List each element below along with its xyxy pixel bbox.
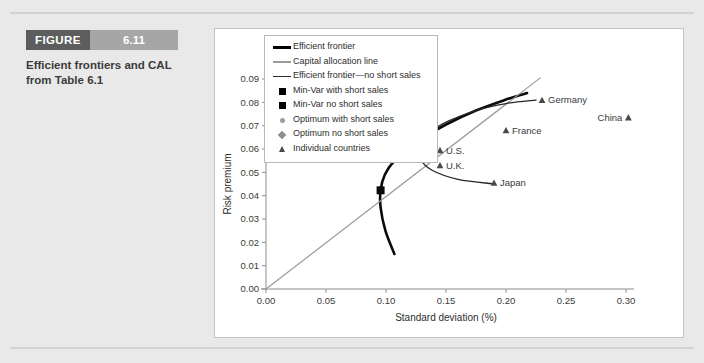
marker-triangle: [625, 114, 632, 120]
data-point-label: U.K.: [446, 160, 464, 171]
data-point-label: China: [598, 112, 624, 123]
bottom-divider: [10, 347, 694, 349]
legend-swatch: [279, 102, 286, 109]
y-axis-tick-label: 0.06: [241, 143, 260, 154]
x-axis-tick-label: 0.15: [437, 295, 456, 306]
y-axis-tick-label: 0.00: [241, 283, 260, 294]
marker-triangle: [539, 97, 546, 103]
legend-item-label: Individual countries: [293, 143, 370, 154]
legend-item: Capital allocation line: [271, 56, 431, 68]
legend-swatch: [280, 118, 285, 123]
x-axis-title: Standard deviation (%): [395, 312, 497, 323]
figure-banner-number: 6.11: [90, 30, 178, 50]
data-point-label: Germany: [548, 94, 587, 105]
legend-key-square-icon: [271, 100, 293, 111]
top-divider: [10, 12, 694, 14]
marker-square: [377, 186, 385, 194]
figure-page: FIGURE 6.11 Efficient frontiers and CAL …: [0, 0, 704, 363]
legend-key-square-icon: [271, 86, 293, 97]
legend-key-diamond-icon: [271, 129, 293, 140]
marker-triangle: [503, 127, 510, 133]
x-axis-tick-label: 0.25: [557, 295, 576, 306]
legend-item: Efficient frontier: [271, 41, 431, 53]
x-axis-tick-label: 0.30: [617, 295, 636, 306]
y-axis-tick-label: 0.05: [241, 167, 260, 178]
legend-item-label: Optimum with short sales: [293, 114, 394, 125]
legend-swatch: [273, 46, 291, 49]
figure-banner-label: FIGURE: [26, 30, 90, 50]
legend-item-label: Capital allocation line: [293, 56, 378, 67]
y-axis-tick-label: 0.07: [241, 120, 260, 131]
legend-swatch: [273, 76, 291, 77]
x-axis-tick-label: 0.20: [497, 295, 516, 306]
x-axis-tick-label: 0.00: [257, 295, 276, 306]
data-point-label: Japan: [500, 177, 526, 188]
legend-swatch: [278, 130, 286, 138]
figure-banner: FIGURE 6.11: [26, 30, 178, 50]
legend-item-label: Efficient frontier—no short sales: [293, 70, 420, 81]
y-axis-tick-label: 0.02: [241, 237, 260, 248]
y-axis-title: Risk premium: [222, 153, 233, 214]
y-axis-tick-label: 0.01: [241, 260, 260, 271]
chart-legend: Efficient frontierCapital allocation lin…: [264, 35, 438, 163]
legend-key-triangle-icon: [271, 144, 293, 155]
legend-item: Optimum no short sales: [271, 128, 431, 140]
legend-key-line-thick-icon: [271, 42, 293, 53]
legend-item-label: Min-Var with short sales: [293, 85, 388, 96]
y-axis-tick-label: 0.03: [241, 213, 260, 224]
legend-key-line-mid-icon: [271, 71, 293, 82]
legend-item-label: Optimum no short sales: [293, 128, 388, 139]
data-point-label: France: [512, 125, 542, 136]
legend-item: Individual countries: [271, 143, 431, 155]
data-point-label: U.S.: [446, 145, 464, 156]
legend-item: Efficient frontier—no short sales: [271, 70, 431, 82]
y-axis-tick-label: 0.08: [241, 97, 260, 108]
legend-swatch: [279, 88, 286, 95]
figure-panel: 0.000.010.020.030.040.050.060.070.080.09…: [214, 28, 684, 338]
legend-item: Min-Var with short sales: [271, 85, 431, 97]
figure-caption: Efficient frontiers and CAL from Table 6…: [26, 58, 192, 88]
legend-item: Min-Var no short sales: [271, 99, 431, 111]
x-axis-tick-label: 0.10: [377, 295, 396, 306]
legend-swatch: [279, 146, 285, 152]
legend-key-line-thin-icon: [271, 57, 293, 68]
legend-swatch: [273, 61, 291, 62]
marker-triangle: [491, 179, 498, 185]
y-axis-tick-label: 0.09: [241, 73, 260, 84]
legend-item: Optimum with short sales: [271, 114, 431, 126]
legend-item-label: Min-Var no short sales: [293, 99, 382, 110]
x-axis-tick-label: 0.05: [317, 295, 336, 306]
legend-key-circle-icon: [271, 115, 293, 126]
y-axis-tick-label: 0.04: [241, 190, 260, 201]
legend-item-label: Efficient frontier: [293, 41, 355, 52]
